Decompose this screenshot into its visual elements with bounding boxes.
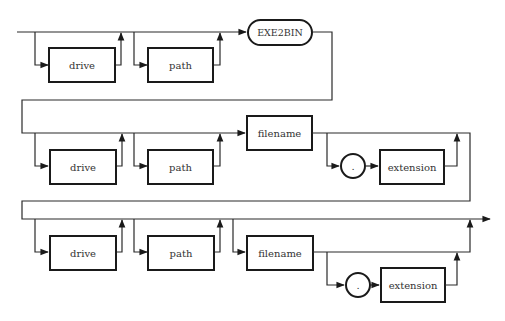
drive-box: drive	[49, 48, 115, 82]
drive-box: drive	[50, 150, 116, 184]
path-box: path	[148, 150, 213, 184]
dot-terminal: .	[341, 154, 365, 178]
drive-box: drive	[50, 236, 116, 270]
filename-box: filename	[247, 116, 312, 150]
dot-terminal: .	[346, 273, 370, 297]
command-keyword: EXE2BIN	[248, 20, 312, 45]
path-box: path	[148, 236, 214, 270]
extension-box: extension	[381, 268, 445, 302]
extension-box: extension	[380, 150, 444, 184]
path-box: path	[148, 48, 213, 82]
syntax-diagram: drive path EXE2BIN drive path filename .…	[0, 0, 505, 321]
filename-box: filename	[247, 236, 313, 270]
